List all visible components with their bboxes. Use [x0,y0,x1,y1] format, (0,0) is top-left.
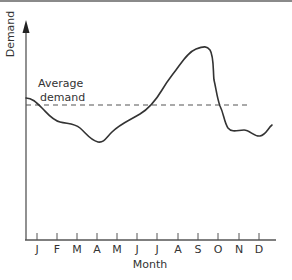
month-label: D [255,243,263,256]
x-axis-title: Month [133,258,168,271]
month-label: A [174,243,182,256]
average-annotation-line2: demand [40,91,85,104]
average-annotation-line1: Average [38,77,83,90]
month-label: S [195,243,202,256]
y-axis-title: Demand [4,11,17,58]
month-label: F [54,243,60,256]
month-label: O [214,243,223,256]
month-label: J [34,243,38,256]
month-label: M [72,243,82,256]
demand-chart: J F M A M J J A S O N D Month Demand Ave… [0,0,292,280]
month-label: A [93,243,101,256]
month-label: M [112,243,122,256]
x-ticks [37,233,259,240]
month-label: J [134,243,138,256]
month-label: N [235,243,243,256]
y-axis-arrow-icon [23,20,30,33]
month-label: J [154,243,158,256]
x-tick-labels: J F M A M J J A S O N D [34,243,263,256]
